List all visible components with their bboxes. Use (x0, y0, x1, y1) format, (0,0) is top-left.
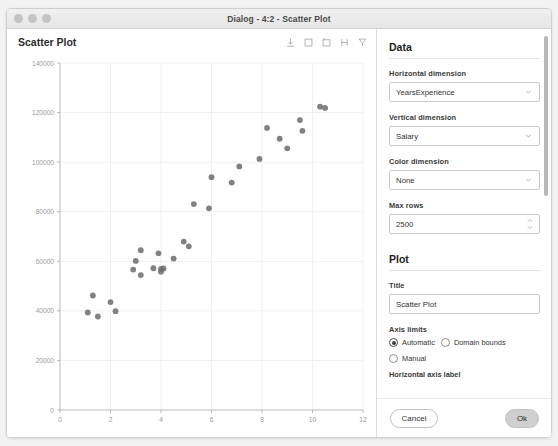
vertical-dimension-value: Salary (396, 132, 418, 141)
radio-manual[interactable]: Manual (389, 354, 426, 363)
plot-toolbar[interactable] (285, 37, 368, 48)
reset-zoom-icon[interactable] (357, 37, 368, 48)
svg-text:2: 2 (109, 416, 113, 423)
svg-text:120000: 120000 (32, 109, 54, 116)
max-rows-label: Max rows (389, 201, 540, 210)
axis-limits-radio-row-1: Automatic Domain bounds (389, 338, 540, 347)
svg-text:8: 8 (260, 416, 264, 423)
chevron-down-icon (524, 132, 533, 141)
window-controls[interactable] (14, 14, 51, 23)
svg-text:80000: 80000 (36, 208, 55, 215)
svg-text:140000: 140000 (32, 60, 54, 67)
color-dimension-select[interactable]: None (389, 170, 540, 190)
export-icon[interactable] (285, 37, 296, 48)
cancel-button[interactable]: Cancel (390, 409, 438, 428)
chart-svg: 0200004000060000800001000001200001400000… (7, 55, 377, 438)
svg-text:0: 0 (50, 407, 54, 414)
color-dimension-label: Color dimension (389, 157, 540, 166)
radio-domain-bounds-label: Domain bounds (454, 338, 506, 347)
lasso-select-icon[interactable] (321, 37, 332, 48)
radio-manual-indicator[interactable] (389, 354, 398, 363)
max-rows-stepper[interactable]: 2500 (389, 214, 540, 234)
chevron-down-icon (524, 176, 533, 185)
axis-limits-label: Axis limits (389, 325, 540, 334)
vertical-dimension-select[interactable]: Salary (389, 126, 540, 146)
section-spacer (389, 245, 540, 251)
radio-automatic[interactable]: Automatic (389, 338, 435, 347)
title-input[interactable]: Scatter Plot (389, 294, 540, 314)
horizontal-dimension-value: YearsExperience (396, 88, 455, 97)
dialog-window: Dialog - 4:2 - Scatter Plot Scatter Plot (6, 8, 552, 438)
title-input-value: Scatter Plot (396, 300, 436, 309)
plot-section-divider (389, 270, 540, 271)
settings-scroll-area[interactable]: Data Horizontal dimension YearsExperienc… (377, 29, 551, 398)
zoom-select-icon[interactable] (339, 37, 350, 48)
dialog-footer: Cancel Ok (377, 398, 551, 438)
color-dimension-value: None (396, 176, 415, 185)
plot-title: Scatter Plot (18, 36, 76, 48)
svg-text:100000: 100000 (32, 159, 54, 166)
stepper-up-icon (526, 218, 534, 223)
horizontal-dimension-select[interactable]: YearsExperience (389, 82, 540, 102)
max-rows-value: 2500 (396, 220, 413, 229)
minimize-button[interactable] (28, 14, 37, 23)
radio-automatic-label: Automatic (402, 338, 435, 347)
svg-text:60000: 60000 (36, 258, 55, 265)
screenshot-root: Dialog - 4:2 - Scatter Plot Scatter Plot (0, 0, 558, 446)
dialog-body: Scatter Plot (7, 29, 551, 438)
horizontal-axis-label-label: Horizontal axis label (389, 370, 540, 379)
window-titlebar[interactable]: Dialog - 4:2 - Scatter Plot (7, 9, 551, 29)
settings-panel: Data Horizontal dimension YearsExperienc… (377, 29, 551, 438)
data-section-divider (389, 58, 540, 59)
svg-text:10: 10 (309, 416, 317, 423)
scatter-chart[interactable]: 0200004000060000800001000001200001400000… (7, 55, 377, 438)
radio-automatic-indicator[interactable] (389, 338, 398, 347)
svg-text:4: 4 (159, 416, 163, 423)
radio-domain-bounds-indicator[interactable] (441, 338, 450, 347)
chevron-down-icon (524, 88, 533, 97)
vertical-dimension-label: Vertical dimension (389, 113, 540, 122)
stepper-arrows[interactable] (526, 218, 534, 230)
svg-text:20000: 20000 (36, 357, 55, 364)
rectangle-select-icon[interactable] (303, 37, 314, 48)
plot-panel: Scatter Plot (7, 29, 377, 438)
svg-text:12: 12 (359, 416, 367, 423)
settings-scrollbar[interactable] (544, 34, 548, 392)
stepper-down-icon (526, 225, 534, 230)
svg-text:40000: 40000 (36, 307, 55, 314)
axis-limits-radio-row-2: Manual (389, 354, 540, 363)
window-title: Dialog - 4:2 - Scatter Plot (7, 9, 551, 29)
radio-domain-bounds[interactable]: Domain bounds (441, 338, 506, 347)
data-section-title: Data (389, 41, 540, 53)
horizontal-dimension-label: Horizontal dimension (389, 69, 540, 78)
plot-section-title: Plot (389, 253, 540, 265)
plot-header: Scatter Plot (7, 29, 376, 55)
close-button[interactable] (14, 14, 23, 23)
ok-button[interactable]: Ok (505, 409, 539, 428)
title-field-label: Title (389, 281, 540, 290)
svg-text:0: 0 (58, 416, 62, 423)
svg-text:6: 6 (210, 416, 214, 423)
settings-scrollbar-thumb[interactable] (544, 36, 548, 196)
zoom-button[interactable] (42, 14, 51, 23)
radio-manual-label: Manual (402, 354, 426, 363)
